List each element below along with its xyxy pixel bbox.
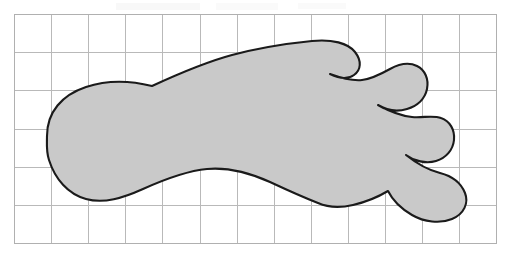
scan-smudge-left [116, 3, 200, 10]
scan-smudge-mid [216, 3, 278, 10]
figure-container [0, 0, 511, 258]
foot-diagram [0, 0, 511, 258]
foot-shape [47, 40, 467, 221]
scan-artifact-group [116, 3, 346, 10]
scan-smudge-right [298, 3, 346, 9]
